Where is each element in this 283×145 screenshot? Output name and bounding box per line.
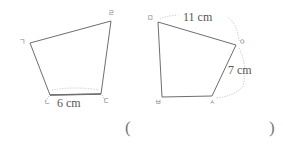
left-quadrilateral-outline (30, 21, 111, 95)
right-vertex-label-c: ㅅ (209, 99, 215, 106)
left-dim-arc (52, 88, 99, 90)
right-top-dim-leader-left (160, 15, 178, 19)
left-bottom-edge-emphasis (50, 94, 101, 95)
right-quadrilateral (158, 15, 245, 98)
right-vertex-label-b: ㅂ (155, 99, 161, 106)
left-vertex-label-a: ㄱ (19, 39, 25, 46)
left-vertex-label-d: ㄹ (108, 10, 114, 17)
figure-stage: ㄱ ㄹ ㄴ ㄷ 6 cm ㅁ ㅇ ㅂ ㅅ 11 cm 7 cm ( ) (0, 0, 283, 145)
right-top-dim-leader-right (228, 17, 239, 41)
left-vertex-label-c: ㄷ (103, 98, 109, 105)
right-top-dimension-label: 11 cm (183, 11, 212, 23)
answer-open-paren: ( (125, 119, 131, 136)
right-quadrilateral-outline (158, 22, 236, 97)
left-vertex-label-b: ㄴ (44, 99, 50, 106)
left-bottom-dimension-label: 6 cm (57, 97, 81, 109)
right-vertex-label-a: ㅁ (147, 15, 153, 22)
left-quadrilateral (30, 21, 111, 101)
right-vertex-label-d: ㅇ (239, 39, 245, 46)
answer-close-paren: ) (269, 119, 275, 136)
right-side-dimension-label: 7 cm (228, 64, 252, 76)
